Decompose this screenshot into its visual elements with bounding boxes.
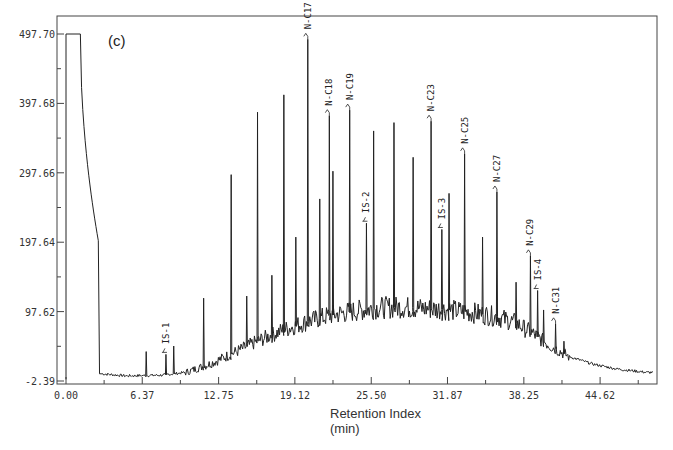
- peak-label-is-1: IS-1: [161, 323, 171, 353]
- peak-label-is-2: IS-2: [361, 192, 371, 222]
- peak-label-n-c29: N-C29: [525, 219, 535, 256]
- x-tick-label: 44.62: [585, 390, 615, 401]
- y-tick-label: 297.66: [19, 168, 55, 179]
- svg-text:N-C27: N-C27: [492, 155, 502, 182]
- chromatogram-trace: [66, 34, 652, 379]
- chromatogram-chart: (c) -2.3997.62197.64297.66397.68497.70 0…: [0, 0, 673, 450]
- x-tick-label: 0.00: [54, 390, 78, 401]
- svg-text:N-C25: N-C25: [460, 117, 470, 144]
- svg-text:IS-1: IS-1: [161, 323, 171, 345]
- x-axis: 0.006.3712.7519.1225.5031.8738.2544.62: [54, 377, 638, 401]
- peak-label-is-4: IS-4: [533, 259, 543, 289]
- x-tick-label: 38.25: [509, 390, 539, 401]
- svg-text:N-C31: N-C31: [551, 287, 561, 314]
- y-tick-label: 497.70: [19, 29, 55, 40]
- peak-label-n-c27: N-C27: [492, 155, 502, 192]
- y-tick-label: 197.64: [19, 237, 55, 248]
- svg-text:IS-3: IS-3: [437, 198, 447, 220]
- x-tick-label: 12.75: [204, 390, 234, 401]
- y-tick-label: -2.39: [25, 376, 55, 387]
- peak-label-n-c31: N-C31: [551, 287, 561, 324]
- y-tick-label: 397.68: [19, 98, 55, 109]
- svg-text:IS-4: IS-4: [533, 259, 543, 281]
- peak-label-is-3: IS-3: [437, 198, 447, 228]
- svg-text:N-C17: N-C17: [303, 2, 313, 29]
- x-tick-label: 6.37: [130, 390, 154, 401]
- peak-label-n-c17: N-C17: [303, 2, 313, 39]
- x-tick-label: 31.87: [432, 390, 462, 401]
- y-tick-label: 97.62: [25, 307, 55, 318]
- peak-label-n-c23: N-C23: [426, 84, 436, 121]
- x-axis-title: Retention Index: [330, 406, 422, 421]
- svg-text:N-C23: N-C23: [426, 84, 436, 111]
- peak-label-n-c18: N-C18: [324, 79, 334, 116]
- x-tick-label: 19.12: [280, 390, 310, 401]
- peak-label-n-c19: N-C19: [345, 73, 355, 110]
- plot-frame: [57, 16, 657, 384]
- peak-label-n-c25: N-C25: [460, 117, 470, 154]
- svg-text:IS-2: IS-2: [361, 192, 371, 214]
- x-tick-label: 25.50: [356, 390, 386, 401]
- x-axis-unit: (min): [330, 421, 360, 436]
- peak-labels: IS-1N-C17N-C18N-C19IS-2N-C23IS-3N-C25N-C…: [161, 2, 561, 352]
- panel-label: (c): [108, 32, 126, 49]
- svg-text:N-C19: N-C19: [345, 73, 355, 100]
- svg-text:N-C18: N-C18: [324, 79, 334, 106]
- svg-text:N-C29: N-C29: [525, 219, 535, 246]
